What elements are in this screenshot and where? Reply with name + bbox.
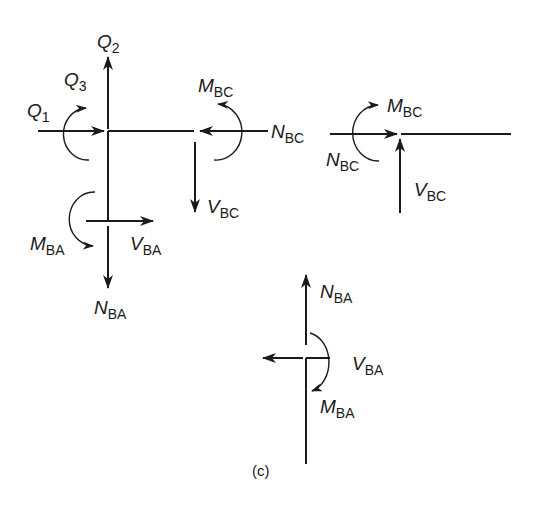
q3-moment-arrow-icon bbox=[63, 108, 89, 160]
member-bc-panel: NBC MBC VBC bbox=[326, 95, 511, 213]
vbc-label: VBC bbox=[207, 196, 239, 221]
vba-label: VBA bbox=[352, 353, 384, 378]
vbc-label: VBC bbox=[414, 179, 446, 204]
member-ba-panel: NBA VBA MBA bbox=[263, 275, 384, 464]
free-body-diagram: Q2 Q1 Q3 NBC MBC VBC VBA MBA NBA NBC MBC bbox=[0, 0, 542, 523]
mba-label: MBA bbox=[320, 396, 355, 421]
figure-caption: (c) bbox=[252, 462, 270, 479]
mbc-moment-arrow-icon bbox=[214, 104, 242, 160]
q1-label: Q1 bbox=[27, 100, 50, 125]
joint-panel: Q2 Q1 Q3 NBC MBC VBC VBA MBA NBA bbox=[27, 31, 304, 322]
mba-label: MBA bbox=[30, 233, 65, 258]
mba-moment-arrow-icon bbox=[69, 192, 95, 246]
mba-moment-arrow-icon bbox=[310, 333, 329, 391]
mbc-label: MBC bbox=[198, 75, 233, 100]
q3-label: Q3 bbox=[64, 69, 87, 94]
q2-label: Q2 bbox=[97, 31, 120, 56]
nba-label: NBA bbox=[320, 281, 353, 306]
mbc-label: MBC bbox=[387, 95, 422, 120]
nbc-label: NBC bbox=[326, 149, 359, 174]
vba-label: VBA bbox=[130, 233, 162, 258]
nba-label: NBA bbox=[94, 297, 127, 322]
nbc-label: NBC bbox=[271, 121, 304, 146]
